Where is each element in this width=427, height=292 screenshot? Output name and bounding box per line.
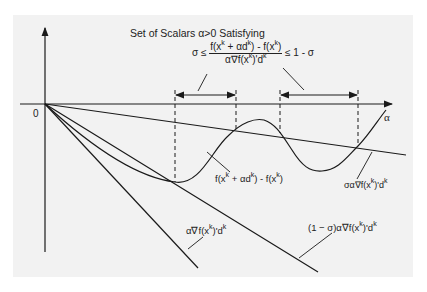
sigma-line-label: σα∇f(xk)'dk (344, 181, 388, 190)
title-pointer-1 (198, 74, 207, 91)
fdiff-pointer (207, 152, 230, 172)
armijo-condition: σ ≤ f(xk + αdk) - f(xk) α∇f(xk)'dk ≤ 1 -… (192, 42, 314, 65)
origin-label: 0 (33, 109, 39, 119)
condition-denominator: α∇f(xk)'dk (209, 54, 282, 65)
one-minus-sigma-label: (1 − σ)α∇f(xk)'dk (308, 223, 377, 233)
function-difference-label: f(xk + αdk) - f(xk) (215, 174, 283, 184)
function-difference-curve (45, 104, 386, 182)
sigma-pointer (357, 152, 372, 179)
title-pointer-2 (283, 68, 304, 90)
x-axis-label: α (384, 112, 390, 123)
sigma-gradient-line (45, 104, 406, 155)
gradient-line-label: α∇f(xk)'dk (186, 226, 226, 236)
condition-lhs: σ ≤ (192, 47, 206, 58)
one-minus-sigma-pointer (299, 233, 332, 258)
condition-numerator: f(xk + αdk) - f(xk) (209, 42, 282, 54)
diagram-title: Set of Scalars α>0 Satisfying (130, 28, 265, 39)
gradient-pointer (188, 237, 203, 249)
condition-fraction: f(xk + αdk) - f(xk) α∇f(xk)'dk (209, 42, 282, 65)
condition-rhs: ≤ 1 - σ (285, 47, 314, 58)
